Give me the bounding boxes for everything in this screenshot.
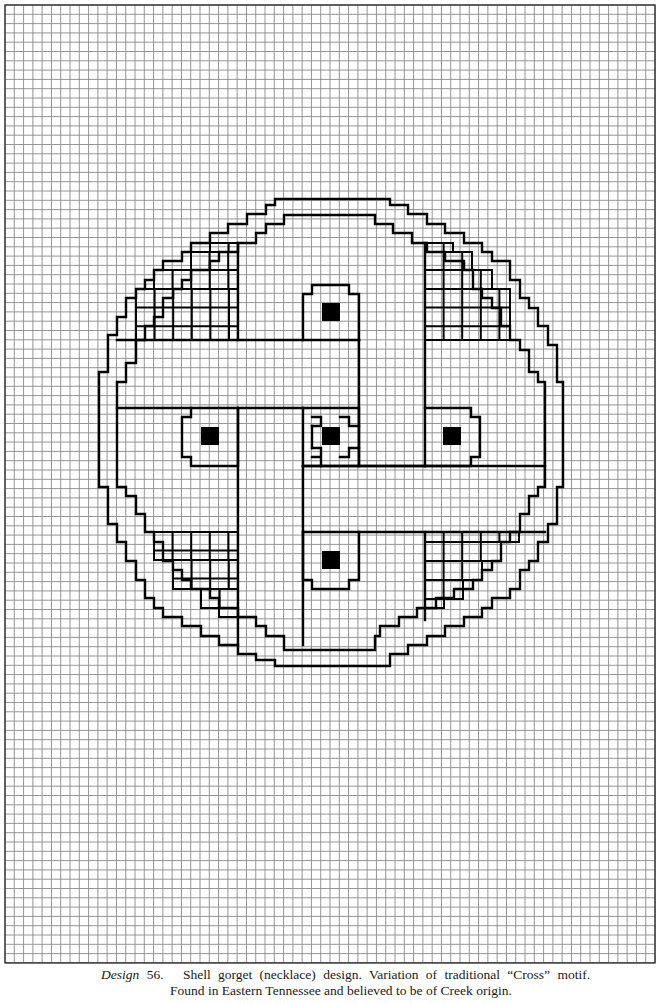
- caption-line-2: Found in Eastern Tennessee and believed …: [170, 983, 512, 999]
- caption-number: 56.: [147, 967, 164, 982]
- graph-paper-grid: [5, 5, 655, 963]
- caption-text-1: Shell gorget (necklace) design. Variatio…: [183, 967, 590, 982]
- filled-square-center: [322, 427, 340, 445]
- caption-line-1: Design 56. Shell gorget (necklace) desig…: [101, 967, 590, 983]
- filled-squares: [201, 303, 461, 569]
- filled-square-left: [201, 427, 219, 445]
- caption-label: Design: [101, 967, 139, 982]
- filled-square-top: [322, 303, 340, 321]
- filled-square-bottom: [322, 551, 340, 569]
- gorget-design-figure: [0, 0, 670, 970]
- filled-square-right: [443, 427, 461, 445]
